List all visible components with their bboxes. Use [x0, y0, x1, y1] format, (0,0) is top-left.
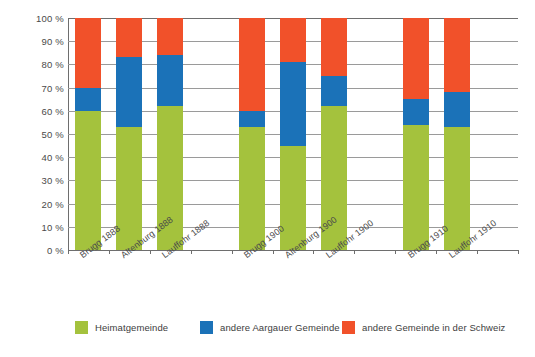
bar-segment-andere-gemeinde-in-der-schweiz[interactable]: [444, 18, 470, 92]
bar-segment-andere-gemeinde-in-der-schweiz[interactable]: [75, 18, 101, 88]
legend-item-2[interactable]: andere Gemeinde in der Schweiz: [342, 318, 505, 336]
bar-segment-andere-aargauer-gemeinde[interactable]: [239, 111, 265, 127]
chart-legend: Heimatgemeindeandere Aargauer Gemeindean…: [0, 318, 535, 340]
y-axis-labels: 0 %10 %20 %30 %40 %50 %60 %70 %80 %90 %1…: [18, 18, 64, 250]
bar-segment-andere-aargauer-gemeinde[interactable]: [444, 92, 470, 127]
bar-altenburg-1900[interactable]: [280, 18, 306, 250]
y-axis-tick-label: 90 %: [18, 36, 64, 47]
legend-item-0[interactable]: Heimatgemeinde: [75, 318, 168, 336]
y-axis-tick-label: 20 %: [18, 198, 64, 209]
bar-segment-andere-aargauer-gemeinde[interactable]: [157, 55, 183, 106]
x-axis-tick-mark: [518, 250, 519, 254]
legend-item-1[interactable]: andere Aargauer Gemeinde: [200, 318, 340, 336]
bar-segment-andere-gemeinde-in-der-schweiz[interactable]: [116, 18, 142, 57]
legend-swatch-icon: [342, 321, 355, 334]
bar-lauffohr-1888[interactable]: [157, 18, 183, 250]
legend-swatch-icon: [75, 321, 88, 334]
plot-area: 0 %10 %20 %30 %40 %50 %60 %70 %80 %90 %1…: [0, 0, 535, 262]
bar-altenburg-1888[interactable]: [116, 18, 142, 250]
bar-segment-andere-gemeinde-in-der-schweiz[interactable]: [157, 18, 183, 55]
x-axis-labels: Brugg 1888Altenburg 1888Lauffohr 1888Bru…: [68, 252, 518, 310]
stacked-bar-chart: 0 %10 %20 %30 %40 %50 %60 %70 %80 %90 %1…: [0, 0, 535, 357]
bar-segment-andere-aargauer-gemeinde[interactable]: [280, 62, 306, 146]
y-axis-tick-label: 10 %: [18, 221, 64, 232]
y-axis-tick-label: 60 %: [18, 105, 64, 116]
bar-segment-andere-gemeinde-in-der-schweiz[interactable]: [239, 18, 265, 111]
legend-swatch-icon: [200, 321, 213, 334]
bar-segment-heimatgemeinde[interactable]: [239, 127, 265, 250]
legend-label: Heimatgemeinde: [95, 322, 168, 333]
bar-segment-heimatgemeinde[interactable]: [403, 125, 429, 250]
y-axis-tick-label: 100 %: [18, 13, 64, 24]
y-axis-tick-label: 0 %: [18, 245, 64, 256]
bar-segment-andere-aargauer-gemeinde[interactable]: [403, 99, 429, 125]
bar-segment-andere-aargauer-gemeinde[interactable]: [116, 57, 142, 127]
y-axis-tick-label: 30 %: [18, 175, 64, 186]
bar-lauffohr-1910[interactable]: [444, 18, 470, 250]
bar-segment-heimatgemeinde[interactable]: [280, 146, 306, 250]
y-axis-tick-label: 80 %: [18, 59, 64, 70]
bar-segment-andere-gemeinde-in-der-schweiz[interactable]: [280, 18, 306, 62]
y-axis-tick-label: 50 %: [18, 129, 64, 140]
y-axis-tick-label: 70 %: [18, 82, 64, 93]
grid-and-bars: [68, 18, 518, 251]
bar-segment-heimatgemeinde[interactable]: [75, 111, 101, 250]
bar-brugg-1888[interactable]: [75, 18, 101, 250]
bar-brugg-1910[interactable]: [403, 18, 429, 250]
legend-label: andere Aargauer Gemeinde: [220, 322, 340, 333]
bar-segment-andere-aargauer-gemeinde[interactable]: [75, 88, 101, 111]
bar-segment-andere-gemeinde-in-der-schweiz[interactable]: [403, 18, 429, 99]
legend-label: andere Gemeinde in der Schweiz: [362, 322, 505, 333]
y-axis-tick-label: 40 %: [18, 152, 64, 163]
bar-brugg-1900[interactable]: [239, 18, 265, 250]
bar-segment-andere-gemeinde-in-der-schweiz[interactable]: [321, 18, 347, 76]
bar-segment-andere-aargauer-gemeinde[interactable]: [321, 76, 347, 106]
